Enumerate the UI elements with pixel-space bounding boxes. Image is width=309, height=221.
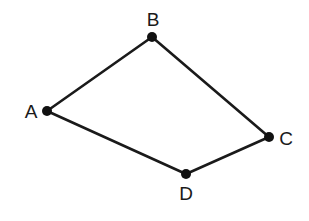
edge-cd [186, 137, 269, 174]
labels-group: ABCD [25, 9, 293, 204]
vertex-label-a: A [25, 101, 38, 122]
vertex-label-c: C [279, 128, 293, 149]
vertex-b-dot-icon [147, 32, 157, 42]
vertex-a-dot-icon [42, 106, 52, 116]
vertex-c-dot-icon [264, 132, 274, 142]
vertex-d-dot-icon [181, 169, 191, 179]
edge-da [47, 111, 186, 174]
vertices-group [42, 32, 274, 179]
edge-ab [47, 37, 152, 111]
edges-group [47, 37, 269, 174]
graph-diagram: ABCD [0, 0, 309, 221]
vertex-label-b: B [147, 9, 160, 30]
vertex-label-d: D [179, 183, 193, 204]
edge-bc [152, 37, 269, 137]
